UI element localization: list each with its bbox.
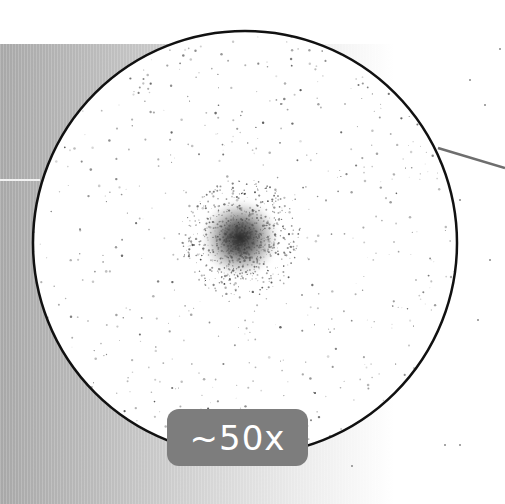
magnification-label: ~50x	[190, 418, 286, 458]
cluster-core	[198, 196, 282, 280]
magnification-badge: ~50x	[167, 409, 308, 466]
pointer-line	[438, 148, 505, 168]
